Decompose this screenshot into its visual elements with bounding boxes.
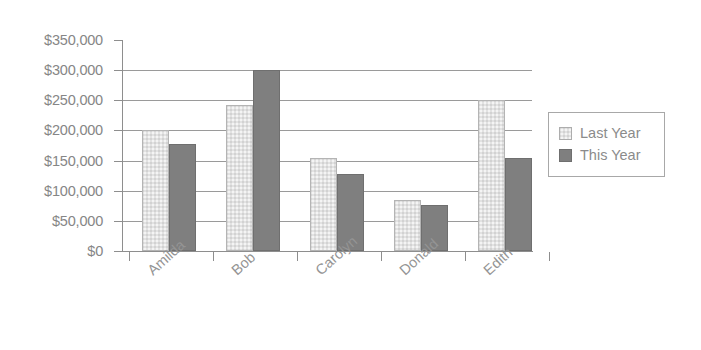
x-axis-tick-mark [297, 252, 298, 261]
bar-amilda-this-year [169, 144, 196, 251]
bar-bob-this-year [253, 70, 280, 251]
y-axis-tick-mark [114, 251, 123, 252]
x-axis-tick-mark [381, 252, 382, 261]
y-axis-tick-label: $100,000 [44, 183, 103, 198]
bar-edith-this-year [505, 158, 532, 251]
y-axis-tick-mark [114, 221, 123, 222]
y-axis-tick-label: $150,000 [44, 153, 103, 168]
x-axis-tick-mark [129, 252, 130, 261]
y-axis-tick-mark [114, 161, 123, 162]
y-axis-tick-mark [114, 40, 123, 41]
legend-swatch-this-year-icon [559, 149, 572, 162]
chart-legend: Last Year This Year [548, 112, 665, 177]
bar-edith-last-year [478, 100, 505, 251]
x-axis-labels: AmildaBobCarolynDonaldEdith [122, 251, 533, 350]
y-axis-tick-mark [114, 191, 123, 192]
bar-donald-last-year [394, 200, 421, 251]
x-axis-tick-mark [213, 252, 214, 261]
x-axis-category-label: Bob [229, 250, 258, 278]
y-axis-tick-label: $200,000 [44, 123, 103, 138]
y-axis-tick-label: $350,000 [44, 33, 103, 48]
bar-amilda-last-year [142, 130, 169, 251]
y-axis-tick-mark [114, 130, 123, 131]
legend-item-last-year: Last Year [559, 122, 652, 144]
x-axis-tick-mark [465, 252, 466, 261]
y-axis-tick-label: $50,000 [52, 214, 103, 229]
legend-label-this-year: This Year [580, 148, 640, 163]
bar-chart: $0$50,000$100,000$150,000$200,000$250,00… [0, 0, 701, 350]
x-axis-tick-mark [549, 252, 550, 261]
bars-layer [122, 40, 533, 251]
legend-swatch-last-year-icon [559, 127, 572, 140]
legend-label-last-year: Last Year [580, 126, 640, 141]
y-axis-tick-label: $250,000 [44, 93, 103, 108]
legend-item-this-year: This Year [559, 144, 652, 166]
y-axis-tick-mark [114, 70, 123, 71]
bar-carolyn-last-year [310, 158, 337, 251]
bar-bob-last-year [226, 105, 253, 251]
y-axis-tick-mark [114, 100, 123, 101]
y-axis-tick-label: $300,000 [44, 63, 103, 78]
y-axis-labels: $0$50,000$100,000$150,000$200,000$250,00… [0, 0, 112, 350]
y-axis-tick-label: $0 [87, 244, 103, 259]
